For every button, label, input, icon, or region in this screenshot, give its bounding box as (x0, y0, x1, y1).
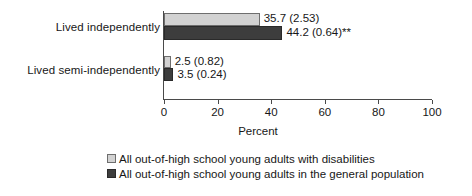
bar-value-lived-independently-disabilities: 35.7 (2.53) (264, 12, 320, 24)
legend-label-general-population: All out-of-high school young adults in t… (119, 168, 424, 180)
bar-value-lived-semi-independently-general-population: 3.5 (0.24) (177, 68, 226, 80)
category-label-lived-independently: Lived independently (56, 21, 160, 33)
legend-swatch-icon-disabilities (107, 154, 116, 163)
x-tick-mark-0 (164, 100, 165, 104)
legend-label-disabilities: All out-of-high school young adults with… (119, 153, 375, 165)
bar-value-lived-semi-independently-disabilities: 2.5 (0.82) (175, 55, 224, 67)
x-tick-mark-40 (271, 100, 272, 104)
x-axis-title-text: Percent (238, 125, 278, 137)
bar-chart: Lived independently Lived semi-independe… (0, 0, 472, 196)
bar-value-lived-independently-general-population: 44.2 (0.64)** (286, 26, 351, 38)
legend-item-general-population: All out-of-high school young adults in t… (107, 166, 424, 181)
x-tick-mark-20 (218, 100, 219, 104)
x-axis-title: Percent (0, 125, 472, 137)
category-label-lived-semi-independently: Lived semi-independently (27, 64, 160, 76)
x-axis-line (163, 99, 432, 100)
bar-lived-independently-disabilities (164, 13, 260, 26)
legend-swatch-icon-general-population (107, 169, 116, 178)
x-tick-label-80: 80 (372, 106, 385, 118)
bar-lived-semi-independently-disabilities (164, 56, 171, 68)
x-tick-label-60: 60 (318, 106, 331, 118)
x-tick-mark-60 (325, 100, 326, 104)
legend-item-disabilities: All out-of-high school young adults with… (107, 151, 424, 166)
x-tick-mark-80 (378, 100, 379, 104)
bar-lived-independently-general-population (164, 26, 282, 40)
x-tick-mark-100 (432, 100, 433, 104)
x-tick-label-40: 40 (265, 106, 278, 118)
x-tick-label-20: 20 (211, 106, 224, 118)
plot-area: 35.7 (2.53) 44.2 (0.64)** 2.5 (0.82) 3.5… (163, 11, 431, 99)
x-tick-label-0: 0 (161, 106, 167, 118)
chart-legend: All out-of-high school young adults with… (107, 151, 424, 181)
x-tick-label-100: 100 (422, 106, 441, 118)
bar-lived-semi-independently-general-population (164, 68, 173, 81)
